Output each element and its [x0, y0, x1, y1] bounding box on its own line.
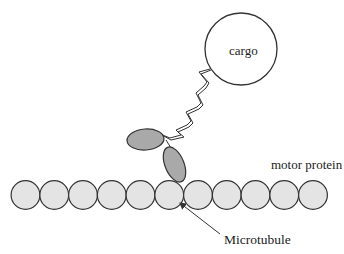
tubulin-subunit: [40, 181, 69, 210]
microtubule: [11, 181, 327, 210]
tubulin-subunit: [241, 181, 270, 210]
motor-head-2: [159, 144, 190, 185]
motor-head-1: [126, 128, 164, 152]
tubulin-subunit: [97, 181, 126, 210]
tubulin-subunit: [270, 181, 299, 210]
motor-protein-diagram: [0, 0, 344, 254]
coiled-linker: [160, 69, 211, 140]
cargo-label: cargo: [229, 44, 258, 57]
tubulin-subunit: [126, 181, 155, 210]
motor-heads: [126, 128, 190, 185]
microtubule-label: Microtubule: [224, 233, 291, 247]
motor-protein-label: motor protein: [271, 158, 342, 171]
tubulin-subunit: [184, 181, 213, 210]
tubulin-subunit: [155, 181, 184, 210]
tubulin-subunit: [69, 181, 98, 210]
tubulin-subunit: [11, 181, 40, 210]
tubulin-subunit: [299, 181, 328, 210]
tubulin-subunit: [212, 181, 241, 210]
